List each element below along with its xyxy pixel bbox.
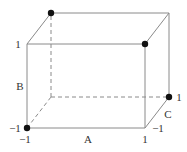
cube-edge	[27, 13, 51, 44]
design-points	[24, 10, 172, 131]
c-high-label: 1	[176, 91, 182, 103]
design-point	[48, 10, 54, 16]
c-axis-label: C	[164, 108, 171, 120]
hidden-edge	[27, 97, 51, 128]
factorial-cube-diagram: 1 B −1 −1 A 1 −1 C 1	[0, 0, 187, 152]
design-point	[142, 41, 148, 47]
a-high-label: 1	[142, 133, 148, 145]
design-point	[24, 125, 30, 131]
design-point	[166, 94, 172, 100]
a-axis-label: A	[84, 133, 92, 145]
cube-edge	[145, 13, 169, 44]
b-axis-label: B	[16, 80, 23, 92]
cube-edges	[27, 13, 169, 128]
c-low-label: −1	[152, 122, 164, 134]
a-low-label: −1	[19, 133, 31, 145]
b-high-label: 1	[15, 38, 21, 50]
